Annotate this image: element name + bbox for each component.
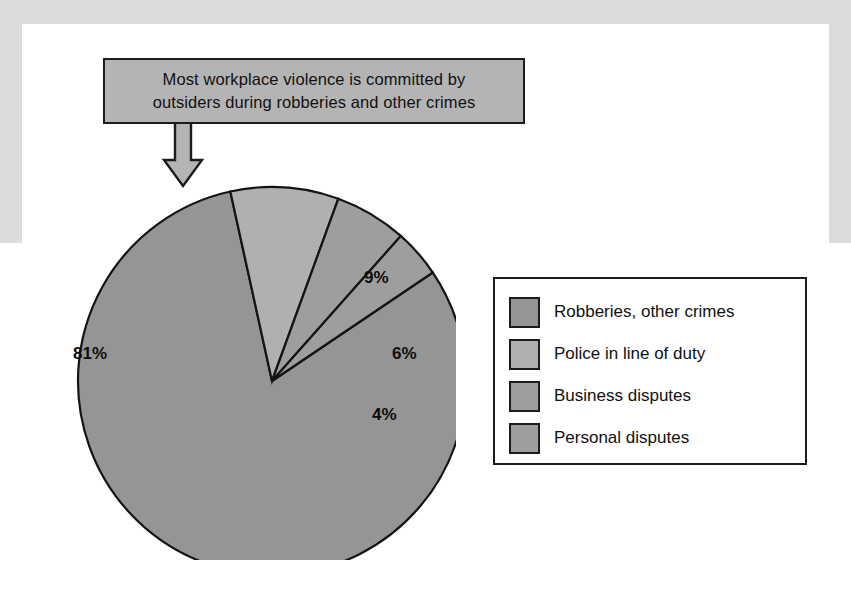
chart-legend: Robberies, other crimes Police in line o… — [493, 277, 807, 465]
legend-item-police: Police in line of duty — [509, 333, 805, 375]
legend-swatch-business — [509, 381, 540, 412]
pie-slice-label-police: 9% — [364, 268, 389, 288]
callout-box: Most workplace violence is committed by … — [103, 58, 525, 124]
legend-item-personal: Personal disputes — [509, 417, 805, 459]
pie-slice-label-personal: 4% — [372, 405, 397, 425]
callout-text: Most workplace violence is committed by … — [143, 68, 486, 115]
legend-label-personal: Personal disputes — [554, 428, 689, 448]
legend-label-robberies: Robberies, other crimes — [554, 302, 734, 322]
legend-swatch-police — [509, 339, 540, 370]
callout-line-2: outsiders during robberies and other cri… — [153, 93, 476, 111]
scan-edge-band-top — [0, 0, 838, 24]
pie-slice-label-business: 6% — [392, 344, 417, 364]
scan-edge-band-right — [829, 0, 851, 243]
legend-swatch-robberies — [509, 297, 540, 328]
pie-slice-label-robberies: 81% — [73, 344, 107, 364]
pie-slices — [78, 187, 456, 560]
page-canvas: Most workplace violence is committed by … — [0, 0, 851, 598]
pie-chart: 81% 9% 6% 4% — [56, 160, 456, 560]
legend-item-business: Business disputes — [509, 375, 805, 417]
callout-line-1: Most workplace violence is committed by — [163, 70, 466, 88]
legend-label-police: Police in line of duty — [554, 344, 705, 364]
scan-edge-band-left — [0, 0, 22, 243]
legend-item-robberies: Robberies, other crimes — [509, 291, 805, 333]
legend-swatch-personal — [509, 423, 540, 454]
legend-label-business: Business disputes — [554, 386, 691, 406]
